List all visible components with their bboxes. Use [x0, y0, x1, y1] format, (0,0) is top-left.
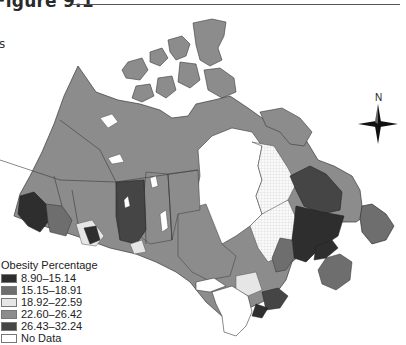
legend-swatch	[1, 286, 17, 295]
region-alberta-dark	[116, 180, 146, 244]
legend-swatch	[1, 298, 17, 307]
legend-label: No Data	[21, 332, 61, 344]
legend-item: 8.90–15.14	[1, 272, 121, 284]
legend-item: 22.60–26.42	[1, 308, 121, 320]
legend-title: Obesity Percentage	[1, 259, 121, 271]
legend-item: 18.92–22.59	[1, 296, 121, 308]
legend-label: 26.43–32.24	[21, 320, 82, 332]
arctic-islands	[122, 19, 236, 102]
legend-label: 22.60–26.42	[21, 308, 82, 320]
legend-item: 15.15–18.91	[1, 284, 121, 296]
region-ontario-south-dark	[262, 288, 288, 310]
region-maritimes	[318, 254, 352, 290]
legend-label: 18.92–22.59	[21, 296, 82, 308]
legend-label: 15.15–18.91	[21, 284, 82, 296]
legend-item: No Data	[1, 332, 121, 344]
region-newfoundland	[360, 204, 394, 244]
compass-rose-icon	[356, 92, 400, 144]
legend-swatch	[1, 322, 17, 331]
legend-swatch	[1, 274, 17, 283]
map-legend: Obesity Percentage 8.90–15.14 15.15–18.9…	[1, 259, 121, 344]
legend-item: 26.43–32.24	[1, 320, 121, 332]
legend-swatch	[1, 334, 17, 343]
legend-label: 8.90–15.14	[21, 272, 76, 284]
legend-swatch	[1, 310, 17, 319]
